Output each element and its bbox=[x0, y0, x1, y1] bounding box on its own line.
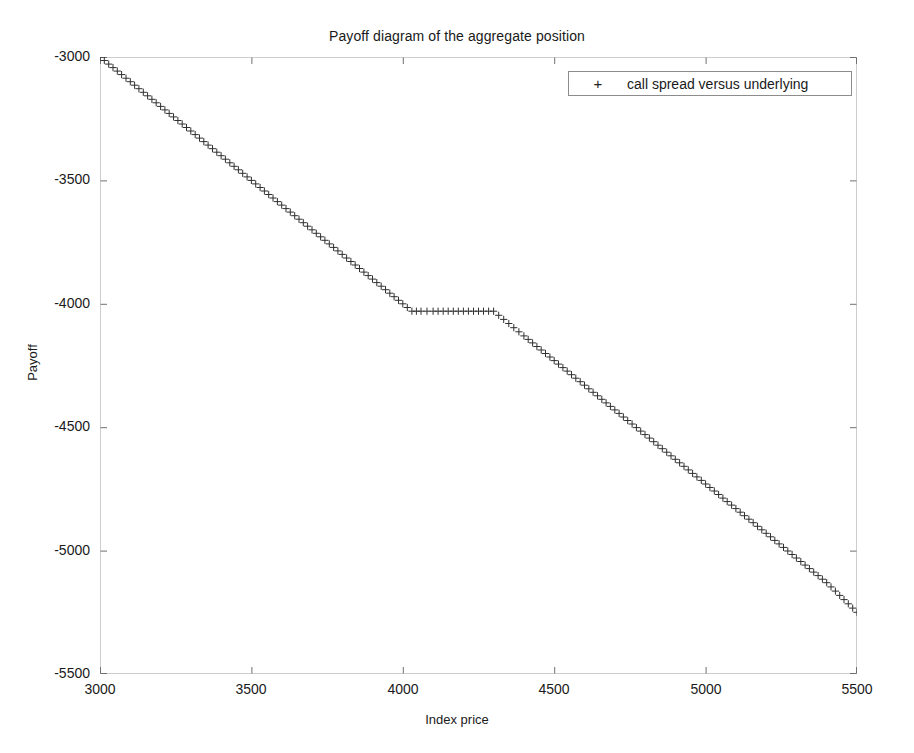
y-tick-label-4: -5000 bbox=[2, 542, 90, 558]
x-tick-label-0: 3000 bbox=[55, 681, 145, 697]
page-title: Payoff diagram of the aggregate position bbox=[0, 28, 914, 44]
legend-label: call spread versus underlying bbox=[627, 76, 808, 92]
y-tick-label-2: -4000 bbox=[2, 295, 90, 311]
legend-entry: + call spread versus underlying bbox=[569, 72, 851, 95]
x-tick-label-5: 5500 bbox=[812, 681, 902, 697]
x-tick-label-1: 3500 bbox=[206, 681, 296, 697]
plot-area bbox=[100, 57, 857, 674]
x-tick-label-3: 4500 bbox=[509, 681, 599, 697]
legend: + call spread versus underlying bbox=[568, 71, 852, 96]
x-tick-label-4: 5000 bbox=[661, 681, 751, 697]
y-tick-label-1: -3500 bbox=[2, 171, 90, 187]
plot-background bbox=[100, 57, 857, 674]
x-axis-label: Index price bbox=[0, 712, 914, 727]
plus-marker-icon: + bbox=[591, 76, 605, 91]
payoff-chart-figure: Payoff diagram of the aggregate position… bbox=[0, 0, 914, 753]
plot-svg bbox=[100, 57, 857, 674]
x-tick-label-2: 4000 bbox=[358, 681, 448, 697]
y-axis-label: Payoff bbox=[25, 323, 40, 403]
y-tick-label-3: -4500 bbox=[2, 418, 90, 434]
y-tick-label-0: -3000 bbox=[2, 48, 90, 64]
y-tick-label-5: -5500 bbox=[2, 665, 90, 681]
